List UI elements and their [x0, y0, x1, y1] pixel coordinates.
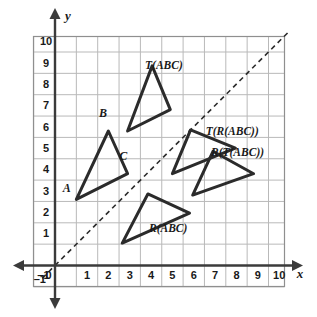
triangle-r-abc-label: R(ABC): [148, 222, 188, 235]
x-axis-tick-label: 5: [169, 269, 175, 281]
y-axis-tick-label: 1: [43, 227, 49, 239]
y-axis-tick-label: 4: [43, 163, 50, 175]
y-axis-tick-label: 10: [40, 35, 52, 47]
x-axis-tick-label: 8: [233, 269, 239, 281]
coordinate-plane-figure: –1012345678910 –112345678910 x y T(ABC)R…: [0, 0, 317, 317]
vertex-label-b: B: [98, 106, 107, 120]
x-axis-tick-label: 4: [148, 269, 155, 281]
x-axis-tick-label: 2: [105, 269, 111, 281]
x-axis-label: x: [296, 266, 304, 281]
triangle-r-t-abc-label: R(T(ABC)): [210, 146, 264, 159]
x-axis-tick-label: 6: [191, 269, 197, 281]
y-axis-label: y: [63, 8, 71, 23]
vertex-label-a: A: [62, 181, 71, 195]
y-axis-tick-label: –1: [34, 273, 46, 285]
x-axis-tick-label: 3: [127, 269, 133, 281]
coordinate-grid-svg: –1012345678910 –112345678910 x y T(ABC)R…: [0, 0, 317, 317]
vertex-label-c: C: [119, 149, 128, 163]
y-axis-tick-label: 8: [43, 78, 49, 90]
y-axis-tick-label: 5: [43, 142, 49, 154]
x-axis-tick-label: 1: [84, 269, 90, 281]
triangle-t-r-abc-label: T(R(ABC)): [206, 125, 259, 138]
x-axis-tick-label: 9: [255, 269, 261, 281]
triangle-t-abc-label: T(ABC): [145, 59, 183, 72]
y-axis-tick-label: 2: [43, 206, 49, 218]
y-axis-tick-label: 3: [43, 185, 49, 197]
x-axis-tick-label: 7: [212, 269, 218, 281]
y-axis-tick-label: 9: [43, 57, 49, 69]
y-axis-tick-label: 6: [43, 121, 49, 133]
x-axis-tick-label: 0: [46, 269, 52, 281]
y-axis-tick-label: 7: [43, 99, 49, 111]
x-axis-tick-label: 10: [273, 269, 285, 281]
